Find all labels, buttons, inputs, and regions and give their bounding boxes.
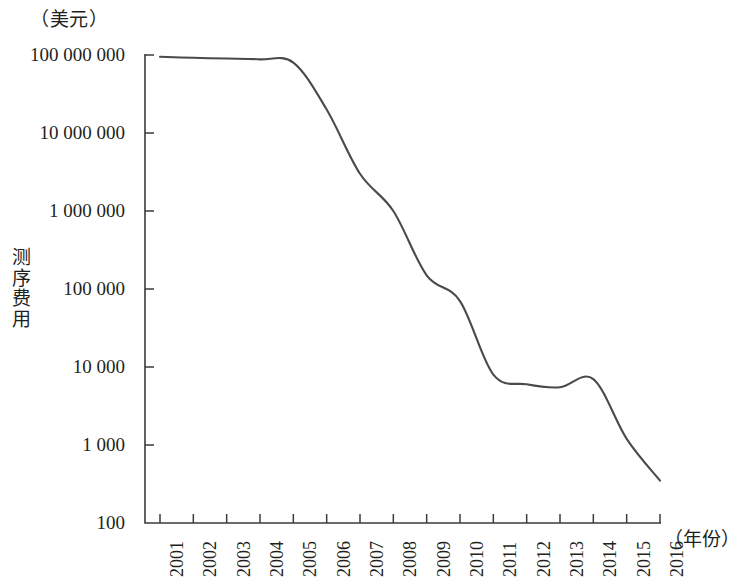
- y-tick-marks: [145, 55, 154, 445]
- cost-trend-line: [160, 57, 660, 481]
- x-tick-marks: [160, 514, 660, 523]
- plot-area: [0, 0, 740, 580]
- sequencing-cost-chart: （美元） 测序费用 100 000 00010 000 0001 000 000…: [0, 0, 740, 580]
- axis-lines: [145, 54, 661, 523]
